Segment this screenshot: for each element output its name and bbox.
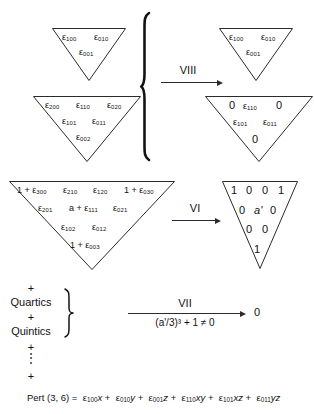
caption-term-6: ε011yz: [251, 392, 280, 403]
stack-item-plus-1: +: [0, 282, 62, 294]
stack-item-vertical-dots: ⋮: [0, 351, 62, 365]
stack-item-plus-2: +: [0, 311, 62, 323]
triangle-entry: ε011: [92, 117, 106, 127]
caption-term-2: ε010y: [110, 392, 137, 403]
triangle-entry: 0: [262, 224, 268, 235]
stack-item-plus-4: +: [0, 370, 62, 382]
stack-grouping-brace: [62, 288, 76, 338]
triangle-entry: ε021: [113, 204, 128, 214]
triangle-entry: ε100: [229, 33, 244, 43]
triangle-entry: ε100: [62, 33, 77, 43]
arrow-vi-label: VI: [176, 202, 214, 214]
stack-item-quartics: Quartics: [0, 296, 62, 308]
triangle-entry: 0: [246, 185, 252, 196]
arrow-viii-label: VIII: [166, 64, 210, 76]
arrow-vii-head: [240, 311, 246, 317]
arrow-viii-head: [217, 80, 223, 86]
triangle-entry: 0: [239, 205, 245, 216]
arrow-viii-line: [161, 82, 218, 83]
caption-term-5: ε101xz: [213, 392, 245, 403]
triangle-entry: a + ε111: [69, 204, 98, 214]
triangle-entry: ε210: [63, 186, 78, 196]
triangle-entry: 0: [252, 134, 258, 145]
triangle-entry: 0: [270, 205, 276, 216]
triangle-entry: ε011: [263, 118, 277, 128]
triangle-entry: ε101: [233, 118, 248, 128]
arrow-vi-line: [172, 220, 216, 221]
triangle-entry: ε010: [94, 33, 109, 43]
caption-term-3: ε001z: [143, 392, 170, 403]
triangle-entry: ε101: [62, 117, 77, 127]
figure-canvas: ε100 ε010 ε001 ε100 ε010 ε001 ε200 ε110 …: [0, 0, 314, 414]
triangle-entry: 1: [278, 185, 284, 196]
grouping-brace: [140, 12, 158, 162]
caption-term-1: ε100x: [77, 392, 104, 403]
triangle-entry: 0: [276, 100, 282, 111]
triangle-entry: a': [254, 205, 262, 216]
triangle-entry: 1: [231, 185, 237, 196]
arrow-vii-label: VII: [130, 297, 240, 309]
triangle-entry: 0: [262, 185, 268, 196]
triangle-entry: 1 + ε003: [70, 241, 100, 251]
triangle-entry: 1: [254, 244, 260, 255]
triangle-entry: 1 + ε300: [17, 186, 47, 196]
triangle-entry: ε012: [92, 223, 107, 233]
triangle-entry: ε002: [76, 133, 91, 143]
triangle-entry: 1 + ε030: [124, 186, 154, 196]
caption-term-4: ε110xy: [176, 392, 208, 403]
figure-caption: Pert (3, 6) = ε100x + ε010y + ε001z + ε1…: [27, 393, 280, 403]
triangle-entry: ε001: [246, 48, 261, 58]
caption-lhs: Pert (3, 6) =: [27, 392, 77, 403]
triangle-entry: 0: [246, 224, 252, 235]
triangle-entry: ε110: [76, 101, 90, 111]
triangle-entry: ε201: [38, 204, 53, 214]
triangle-entry: ε110: [243, 102, 257, 112]
triangle-entry: ε200: [45, 101, 60, 111]
arrow-vii-target: 0: [254, 306, 274, 318]
quadratic-terms-triangle-result-outline: [205, 96, 313, 162]
triangle-entry: ε010: [261, 33, 276, 43]
stack-item-quintics: Quintics: [0, 325, 62, 337]
arrow-vi-head: [215, 218, 221, 224]
triangle-entry: ε001: [79, 48, 94, 58]
arrow-vii-condition: (a'/3)³ + 1 ≠ 0: [130, 317, 240, 328]
triangle-entry: ε020: [107, 101, 122, 111]
triangle-entry: ε102: [61, 223, 76, 233]
triangle-entry: 0: [229, 100, 235, 111]
arrow-vii-line: [128, 313, 241, 314]
triangle-entry: ε120: [93, 186, 108, 196]
